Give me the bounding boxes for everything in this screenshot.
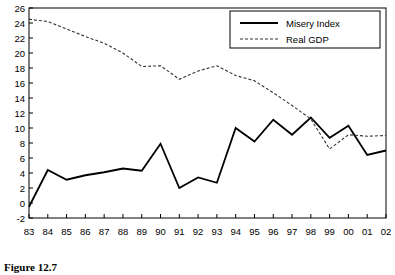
x-axis-tick-label: 99 xyxy=(324,226,335,237)
y-axis-tick-label: 8 xyxy=(20,138,25,149)
x-axis-tick-label: 88 xyxy=(118,226,129,237)
y-axis-tick-label: 22 xyxy=(14,33,25,44)
legend-label-real-gdp: Real GDP xyxy=(286,34,329,45)
x-axis-tick-label: 89 xyxy=(136,226,147,237)
x-axis-tick-label: 96 xyxy=(268,226,279,237)
y-axis-tick-label: 26 xyxy=(14,3,25,14)
y-axis-tick-label: 10 xyxy=(14,123,25,134)
y-axis-tick-label: 16 xyxy=(14,78,25,89)
x-axis-tick-label: 98 xyxy=(306,226,317,237)
y-axis-tick-label: 20 xyxy=(14,48,25,59)
y-axis-tick-label: 24 xyxy=(14,18,25,29)
y-axis-tick-label: 18 xyxy=(14,63,25,74)
y-axis-tick-label: 6 xyxy=(20,153,25,164)
figure-container: -202468101214161820222426 83848586878889… xyxy=(0,0,395,275)
x-axis-tick-label: 97 xyxy=(287,226,298,237)
y-axis-tick-label: 14 xyxy=(14,93,25,104)
x-axis-tick-label: 02 xyxy=(381,226,392,237)
x-axis-tick-label: 95 xyxy=(249,226,260,237)
chart-legend: Misery IndexReal GDP xyxy=(230,11,380,48)
x-axis-tick-label: 86 xyxy=(80,226,91,237)
x-axis-tick-label: 84 xyxy=(43,226,54,237)
x-axis-tick-label: 92 xyxy=(193,226,204,237)
y-axis-tick-label: -2 xyxy=(17,213,25,224)
x-axis-tick-label: 00 xyxy=(343,226,354,237)
legend-label-misery-index: Misery Index xyxy=(286,18,340,29)
x-axis-tick-label: 93 xyxy=(212,226,223,237)
misery-index-real-gdp-line-chart: -202468101214161820222426 83848586878889… xyxy=(0,0,395,275)
y-axis-tick-label: 12 xyxy=(14,108,25,119)
x-axis-tick-label: 87 xyxy=(99,226,110,237)
y-axis-tick-label: 0 xyxy=(20,198,25,209)
x-axis-tick-label: 90 xyxy=(155,226,166,237)
x-axis-tick-label: 91 xyxy=(174,226,185,237)
x-axis-tick-label: 83 xyxy=(24,226,35,237)
x-axis-tick-label: 94 xyxy=(230,226,241,237)
x-axis-tick-label: 01 xyxy=(362,226,373,237)
y-axis-tick-label: 2 xyxy=(20,183,25,194)
figure-caption: Figure 12.7 xyxy=(4,261,57,273)
y-axis-tick-label: 4 xyxy=(20,168,25,179)
x-axis-tick-label: 85 xyxy=(61,226,72,237)
